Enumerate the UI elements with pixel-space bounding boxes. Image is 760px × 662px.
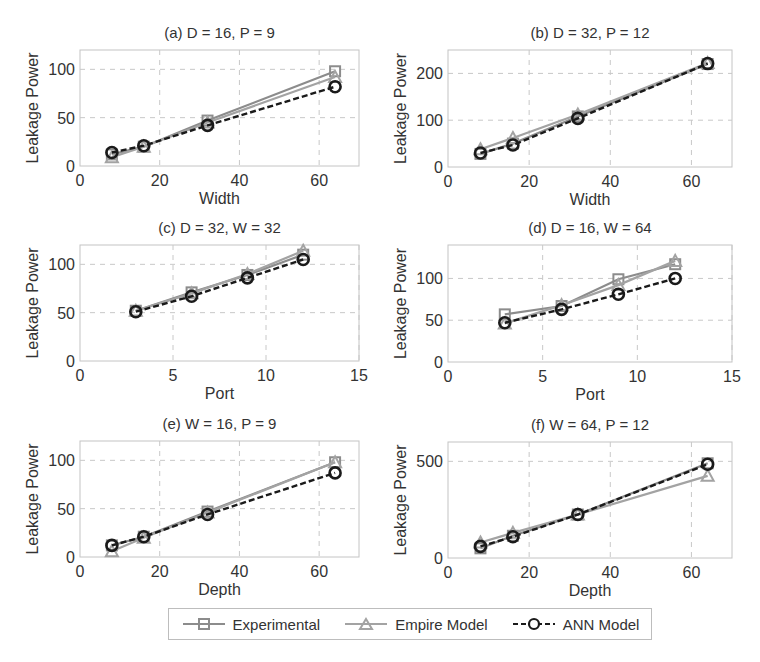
x-tick-label: 5 (169, 367, 178, 384)
y-tick-label: 50 (57, 110, 75, 127)
y-tick-label: 50 (57, 305, 75, 322)
y-tick-label: 0 (66, 158, 75, 175)
x-tick-label: 60 (310, 563, 328, 580)
subplot-title: (f) W = 64, P = 12 (531, 416, 649, 433)
plot-area (448, 245, 732, 362)
subplot-title: (b) D = 32, P = 12 (531, 24, 650, 41)
subplot-d: 051015050100(d) D = 16, W = 64PortLeakag… (392, 219, 741, 403)
legend-label: ANN Model (563, 616, 640, 633)
x-axis-label: Depth (569, 582, 612, 599)
y-tick-label: 100 (48, 452, 75, 469)
x-tick-label: 60 (683, 564, 701, 581)
x-axis-label: Width (199, 190, 240, 207)
x-tick-label: 20 (520, 173, 538, 190)
x-tick-label: 40 (601, 173, 619, 190)
y-tick-label: 0 (66, 549, 75, 566)
subplot-b: 02040600100200(b) D = 32, P = 12WidthLea… (392, 24, 732, 208)
x-axis-label: Port (575, 386, 605, 403)
legend-label: Empire Model (395, 616, 488, 633)
y-tick-label: 0 (66, 353, 75, 370)
x-tick-label: 10 (257, 367, 275, 384)
y-axis-label: Leakage Power (24, 52, 41, 164)
x-tick-label: 15 (723, 368, 741, 385)
subplot-title: (a) D = 16, P = 9 (164, 24, 275, 41)
subplot-title: (e) W = 16, P = 9 (163, 415, 277, 432)
x-axis-label: Width (570, 191, 611, 208)
x-tick-label: 40 (231, 563, 249, 580)
x-tick-label: 0 (76, 367, 85, 384)
x-tick-label: 20 (151, 563, 169, 580)
plot-area (80, 50, 359, 166)
x-tick-label: 5 (538, 368, 547, 385)
y-tick-label: 100 (48, 61, 75, 78)
x-tick-label: 0 (444, 173, 453, 190)
x-tick-label: 60 (310, 172, 328, 189)
subplot-title: (d) D = 16, W = 64 (528, 219, 651, 236)
y-tick-label: 100 (416, 270, 443, 287)
y-tick-label: 0 (434, 159, 443, 176)
x-tick-label: 0 (444, 368, 453, 385)
subplot-f: 02040600500(f) W = 64, P = 12DepthLeakag… (392, 416, 732, 599)
legend: Experimental Empire Model ANN Model (168, 608, 652, 640)
subplot-e: 0204060050100(e) W = 16, P = 9DepthLeaka… (24, 415, 359, 598)
subplot-title: (c) D = 32, W = 32 (158, 219, 281, 236)
x-tick-label: 0 (76, 172, 85, 189)
triangle-marker-icon (343, 617, 389, 631)
figure: 0204060050100(a) D = 16, P = 9WidthLeaka… (0, 0, 760, 662)
subplot-c: 051015050100(c) D = 32, W = 32PortLeakag… (24, 219, 368, 402)
legend-item-empire-model: Empire Model (343, 616, 488, 633)
x-tick-label: 40 (231, 172, 249, 189)
y-tick-label: 0 (434, 550, 443, 567)
y-tick-label: 500 (416, 453, 443, 470)
x-tick-label: 40 (601, 564, 619, 581)
x-tick-label: 10 (628, 368, 646, 385)
square-marker-icon (181, 617, 227, 631)
y-axis-label: Leakage Power (392, 52, 409, 164)
legend-item-experimental: Experimental (181, 616, 321, 633)
y-axis-label: Leakage Power (24, 247, 41, 359)
plot-area (80, 245, 359, 361)
y-tick-label: 50 (57, 501, 75, 518)
x-axis-label: Port (205, 385, 235, 402)
y-tick-label: 100 (416, 112, 443, 129)
x-tick-label: 15 (350, 367, 368, 384)
y-axis-label: Leakage Power (392, 247, 409, 359)
x-tick-label: 0 (444, 564, 453, 581)
y-tick-label: 0 (434, 354, 443, 371)
y-axis-label: Leakage Power (392, 444, 409, 556)
y-tick-label: 100 (48, 256, 75, 273)
x-tick-label: 20 (520, 564, 538, 581)
plot-area (80, 441, 359, 557)
x-tick-label: 60 (683, 173, 701, 190)
x-tick-label: 0 (76, 563, 85, 580)
legend-item-ann-model: ANN Model (511, 616, 640, 633)
circle-marker-icon (511, 617, 557, 631)
y-tick-label: 200 (416, 65, 443, 82)
x-axis-label: Depth (198, 581, 241, 598)
y-axis-label: Leakage Power (24, 443, 41, 555)
legend-label: Experimental (233, 616, 321, 633)
x-tick-label: 20 (151, 172, 169, 189)
subplot-a: 0204060050100(a) D = 16, P = 9WidthLeaka… (24, 24, 359, 207)
y-tick-label: 50 (425, 312, 443, 329)
